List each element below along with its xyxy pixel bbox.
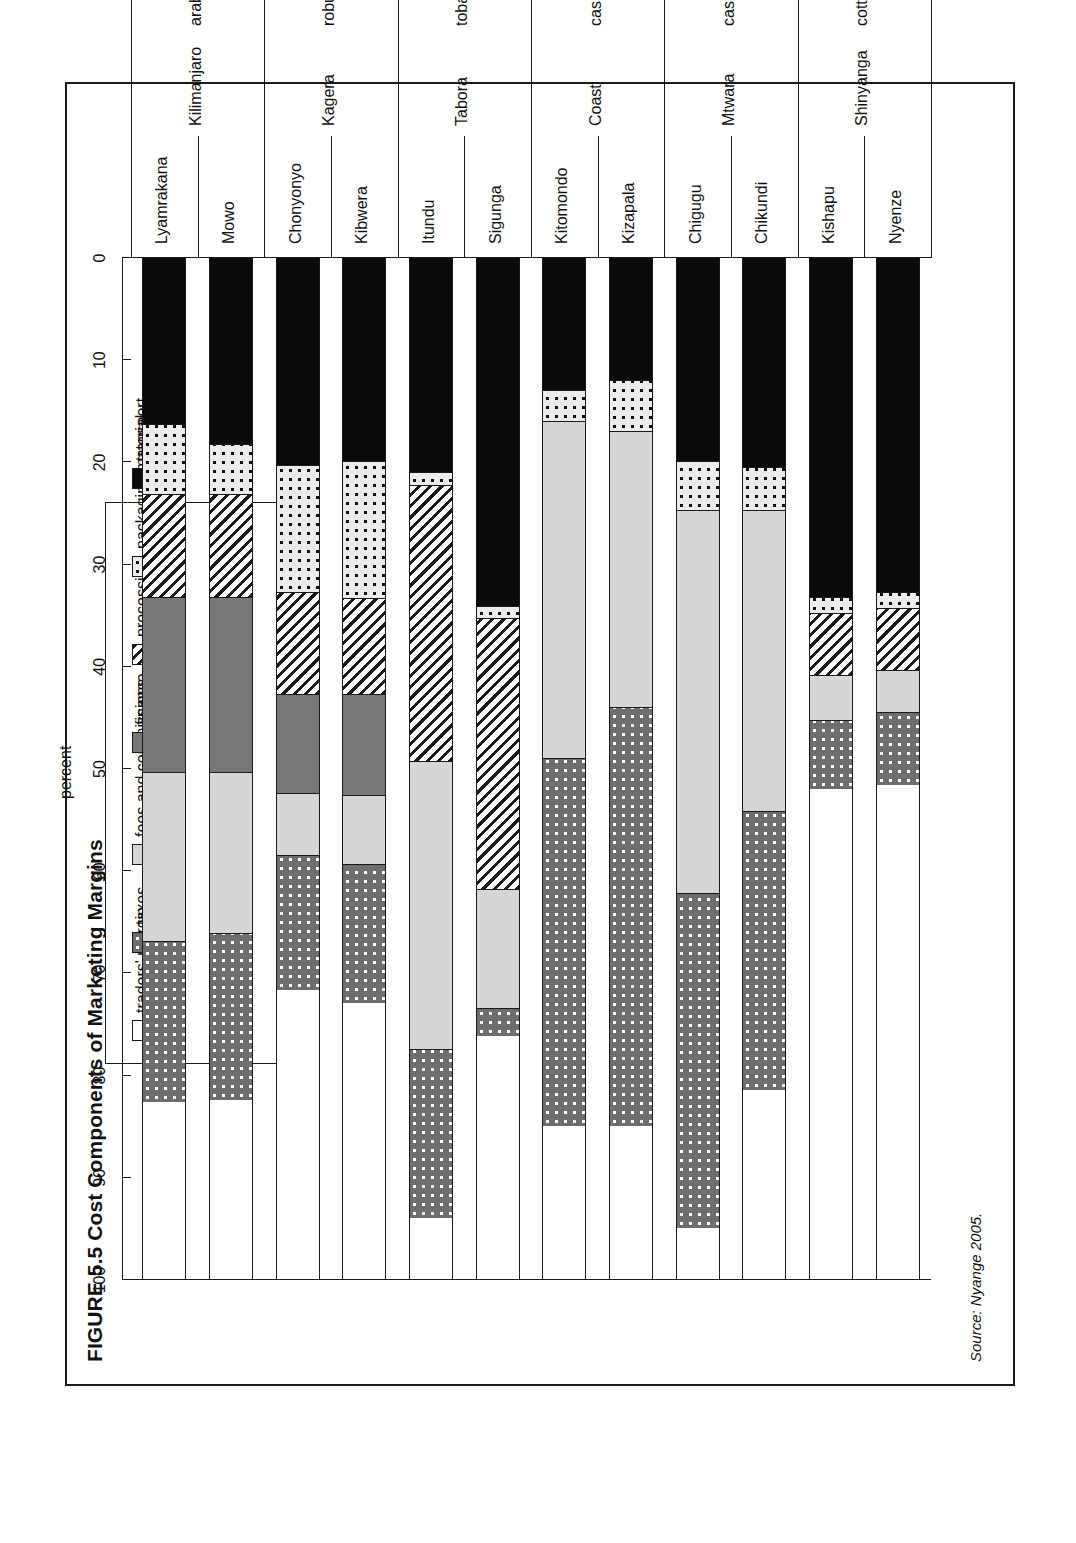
bar-row	[342, 258, 386, 1280]
value-axis-tick	[122, 972, 131, 973]
bar-row	[809, 258, 853, 1280]
group-label-crop-arabica-coffee: arabica coffee	[187, 0, 205, 26]
bar-segment-fees-and-commissions	[277, 793, 319, 855]
bar-segment-transport	[143, 257, 185, 424]
category-separator-minor	[464, 136, 465, 258]
group-label-region-shinyanga: Shinyanga	[853, 50, 871, 126]
bar-segment-finance	[143, 597, 185, 772]
bar-segment-packaging-material	[343, 461, 385, 598]
value-axis-tick-label: 80	[91, 1053, 109, 1099]
bar-segment-transport	[477, 257, 519, 606]
bar-segment-processing	[210, 494, 252, 597]
bar-row	[276, 258, 320, 1280]
bar-segment-fees-and-commissions	[410, 761, 452, 1049]
value-axis-tick-label: 10	[91, 337, 109, 383]
stacked-bar-chigugu	[676, 258, 720, 1280]
bar-segment-finance	[210, 597, 252, 772]
category-label-lyamrakana: Lyamrakana	[153, 157, 171, 244]
value-axis-tick	[122, 1177, 131, 1178]
bar-segment-packaging-material	[210, 444, 252, 494]
category-label-chigugu: Chigugu	[687, 184, 705, 244]
stacked-bar-kibwera	[342, 258, 386, 1280]
plot-area: 1009080706050403020100percent Lyamrakana…	[131, 258, 931, 1280]
category-separator-major	[931, 0, 932, 258]
bar-segment-taxes	[410, 1049, 452, 1218]
category-label-mowo: Mowo	[220, 201, 238, 244]
category-column-rule	[131, 33, 931, 34]
group-label-crop-robusta-coffee: robusta coffee	[320, 0, 338, 26]
category-separator-major	[398, 0, 399, 258]
bar-segment-transport	[610, 257, 652, 380]
bar-segment-fees-and-commissions	[743, 510, 785, 810]
group-label-region-coast: Coast	[587, 84, 605, 126]
value-axis-tick	[122, 1075, 131, 1076]
group-label-crop-tobacco: tobacco	[453, 0, 471, 26]
value-axis-tick	[122, 257, 131, 258]
category-separator-minor	[198, 136, 199, 258]
value-axis-tick-label: 100	[91, 1257, 109, 1303]
figure-page-frame: FIGURE 5.5 Cost Components of Marketing …	[65, 82, 1015, 1386]
bar-segment-processing	[477, 618, 519, 889]
category-separator-major	[131, 0, 132, 258]
value-axis-tick-label: 90	[91, 1155, 109, 1201]
bar-segment-finance	[343, 694, 385, 794]
bar-segment-taxes	[610, 707, 652, 1126]
stacked-bar-nyenze	[876, 258, 920, 1280]
value-axis-tick	[122, 768, 131, 769]
bar-segment-packaging-material	[610, 380, 652, 431]
value-axis-tick-label: 70	[91, 950, 109, 996]
bar-segment-fees-and-commissions	[343, 795, 385, 864]
bar-row	[142, 258, 186, 1280]
bar-row	[742, 258, 786, 1280]
bar-segment-traders-margin	[677, 1228, 719, 1279]
bar-segment-fees-and-commissions	[877, 670, 919, 712]
category-separator-minor	[864, 136, 865, 258]
group-label-region-tabora: Tabora	[453, 77, 471, 126]
bar-segment-taxes	[543, 758, 585, 1126]
stacked-bar-kitomondo	[542, 258, 586, 1280]
category-separator-major	[664, 0, 665, 258]
bar-segment-fees-and-commissions	[543, 421, 585, 758]
category-separator-minor	[598, 136, 599, 258]
category-column-rule	[131, 135, 931, 136]
bar-segment-traders-margin	[743, 1090, 785, 1279]
value-axis-tick-label: 30	[91, 542, 109, 588]
group-label-crop-cashews: cashews	[587, 0, 605, 26]
bar-segment-packaging-material	[877, 592, 919, 607]
bar-segment-fees-and-commissions	[610, 431, 652, 707]
bar-segment-processing	[143, 494, 185, 597]
value-axis-tick-label: 60	[91, 848, 109, 894]
bar-row	[409, 258, 453, 1280]
bar-row	[542, 258, 586, 1280]
value-axis-tick-label: 40	[91, 644, 109, 690]
bar-segment-packaging-material	[743, 467, 785, 511]
figure-canvas: FIGURE 5.5 Cost Components of Marketing …	[67, 84, 1013, 1384]
bar-segment-traders-margin	[610, 1126, 652, 1279]
group-label-region-mtwara: Mtwara	[720, 74, 738, 126]
bar-segment-taxes	[810, 720, 852, 789]
bar-row	[476, 258, 520, 1280]
bar-segment-processing	[810, 613, 852, 675]
bar-segment-taxes	[343, 864, 385, 1003]
bar-segment-traders-margin	[877, 785, 919, 1279]
bar-row	[209, 258, 253, 1280]
value-axis-tick-label: 0	[91, 235, 109, 281]
bar-segment-taxes	[677, 893, 719, 1228]
bar-segment-taxes	[877, 712, 919, 786]
category-label-kizapala: Kizapala	[620, 183, 638, 244]
bar-segment-taxes	[277, 855, 319, 990]
bar-segment-packaging-material	[677, 461, 719, 510]
stacked-bar-itundu	[409, 258, 453, 1280]
bar-row	[609, 258, 653, 1280]
bar-segment-packaging-material	[410, 472, 452, 485]
stacked-bar-lyamrakana	[142, 258, 186, 1280]
group-label-crop-cashews: cashews	[720, 0, 738, 26]
bar-segment-taxes	[743, 811, 785, 1090]
bar-segment-traders-margin	[410, 1218, 452, 1279]
value-axis-tick	[122, 461, 131, 462]
group-label-region-kagera: Kagera	[320, 74, 338, 126]
bar-segment-fees-and-commissions	[143, 772, 185, 941]
bar-segment-traders-margin	[343, 1003, 385, 1279]
bar-row	[676, 258, 720, 1280]
bar-segment-transport	[343, 257, 385, 461]
